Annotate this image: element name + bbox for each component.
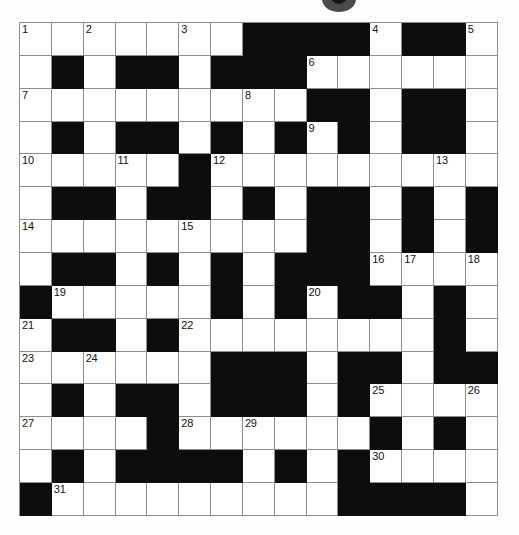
grid-cell-open[interactable] (116, 89, 148, 122)
grid-cell-open[interactable] (116, 417, 148, 450)
grid-cell-open[interactable] (434, 56, 466, 89)
grid-cell-open[interactable] (52, 23, 84, 56)
grid-cell-open[interactable]: 16 (370, 253, 402, 286)
grid-cell-open[interactable] (179, 56, 211, 89)
grid-cell-open[interactable] (84, 286, 116, 319)
grid-cell-open[interactable] (52, 352, 84, 385)
grid-cell-open[interactable] (370, 187, 402, 220)
grid-cell-open[interactable] (211, 220, 243, 253)
grid-cell-open[interactable] (147, 352, 179, 385)
grid-cell-open[interactable] (338, 56, 370, 89)
grid-cell-open[interactable] (52, 154, 84, 187)
grid-cell-open[interactable] (116, 483, 148, 516)
grid-cell-open[interactable] (147, 23, 179, 56)
grid-cell-open[interactable] (211, 319, 243, 352)
grid-cell-open[interactable]: 15 (179, 220, 211, 253)
grid-cell-open[interactable]: 17 (402, 253, 434, 286)
grid-cell-open[interactable] (434, 220, 466, 253)
grid-cell-open[interactable] (275, 187, 307, 220)
grid-cell-open[interactable] (370, 56, 402, 89)
grid-cell-open[interactable] (116, 319, 148, 352)
grid-cell-open[interactable] (307, 483, 339, 516)
grid-cell-open[interactable] (147, 154, 179, 187)
grid-cell-open[interactable] (84, 122, 116, 155)
grid-cell-open[interactable] (338, 319, 370, 352)
grid-cell-open[interactable] (307, 154, 339, 187)
grid-cell-open[interactable] (84, 450, 116, 483)
grid-cell-open[interactable] (84, 483, 116, 516)
grid-cell-open[interactable] (211, 187, 243, 220)
grid-cell-open[interactable] (211, 23, 243, 56)
grid-cell-open[interactable] (307, 352, 339, 385)
grid-cell-open[interactable] (307, 417, 339, 450)
grid-cell-open[interactable] (402, 154, 434, 187)
grid-cell-open[interactable] (116, 187, 148, 220)
grid-cell-open[interactable] (116, 253, 148, 286)
grid-cell-open[interactable] (434, 253, 466, 286)
grid-cell-open[interactable] (52, 89, 84, 122)
grid-cell-open[interactable] (275, 154, 307, 187)
grid-cell-open[interactable] (370, 319, 402, 352)
grid-cell-open[interactable]: 19 (52, 286, 84, 319)
grid-cell-open[interactable] (20, 187, 52, 220)
grid-cell-open[interactable] (20, 122, 52, 155)
grid-cell-open[interactable]: 7 (20, 89, 52, 122)
grid-cell-open[interactable]: 6 (307, 56, 339, 89)
grid-cell-open[interactable] (84, 89, 116, 122)
grid-cell-open[interactable]: 1 (20, 23, 52, 56)
grid-cell-open[interactable]: 25 (370, 384, 402, 417)
grid-cell-open[interactable]: 18 (466, 253, 498, 286)
grid-cell-open[interactable] (179, 352, 211, 385)
grid-cell-open[interactable] (147, 286, 179, 319)
grid-cell-open[interactable] (20, 56, 52, 89)
grid-cell-open[interactable]: 28 (179, 417, 211, 450)
grid-cell-open[interactable] (211, 417, 243, 450)
grid-cell-open[interactable]: 22 (179, 319, 211, 352)
grid-cell-open[interactable] (402, 384, 434, 417)
grid-cell-open[interactable] (307, 450, 339, 483)
grid-cell-open[interactable]: 11 (116, 154, 148, 187)
grid-cell-open[interactable] (434, 187, 466, 220)
grid-cell-open[interactable]: 20 (307, 286, 339, 319)
grid-cell-open[interactable]: 13 (434, 154, 466, 187)
grid-cell-open[interactable] (84, 417, 116, 450)
grid-cell-open[interactable] (402, 319, 434, 352)
grid-cell-open[interactable] (370, 154, 402, 187)
grid-cell-open[interactable] (147, 483, 179, 516)
grid-cell-open[interactable]: 29 (243, 417, 275, 450)
grid-cell-open[interactable] (211, 89, 243, 122)
grid-cell-open[interactable] (307, 319, 339, 352)
grid-cell-open[interactable] (147, 220, 179, 253)
grid-cell-open[interactable]: 3 (179, 23, 211, 56)
grid-cell-open[interactable] (179, 89, 211, 122)
grid-cell-open[interactable] (402, 56, 434, 89)
grid-cell-open[interactable] (20, 253, 52, 286)
grid-cell-open[interactable]: 9 (307, 122, 339, 155)
grid-cell-open[interactable]: 2 (84, 23, 116, 56)
grid-cell-open[interactable] (402, 450, 434, 483)
grid-cell-open[interactable] (243, 253, 275, 286)
grid-cell-open[interactable] (275, 89, 307, 122)
grid-cell-open[interactable] (370, 220, 402, 253)
grid-cell-open[interactable] (402, 286, 434, 319)
grid-cell-open[interactable]: 26 (466, 384, 498, 417)
grid-cell-open[interactable] (307, 384, 339, 417)
grid-cell-open[interactable]: 30 (370, 450, 402, 483)
grid-cell-open[interactable] (52, 417, 84, 450)
grid-cell-open[interactable]: 21 (20, 319, 52, 352)
grid-cell-open[interactable] (275, 319, 307, 352)
grid-cell-open[interactable] (116, 286, 148, 319)
grid-cell-open[interactable] (84, 154, 116, 187)
grid-cell-open[interactable] (402, 352, 434, 385)
crossword-grid[interactable]: 1234567891011121314151617181920212223242… (19, 22, 498, 516)
grid-cell-open[interactable] (243, 483, 275, 516)
grid-cell-open[interactable] (370, 122, 402, 155)
grid-cell-open[interactable] (179, 122, 211, 155)
grid-cell-open[interactable] (243, 122, 275, 155)
grid-cell-open[interactable] (466, 122, 498, 155)
grid-cell-open[interactable] (243, 154, 275, 187)
grid-cell-open[interactable] (116, 23, 148, 56)
grid-cell-open[interactable]: 24 (84, 352, 116, 385)
grid-cell-open[interactable] (466, 154, 498, 187)
grid-cell-open[interactable] (466, 483, 498, 516)
